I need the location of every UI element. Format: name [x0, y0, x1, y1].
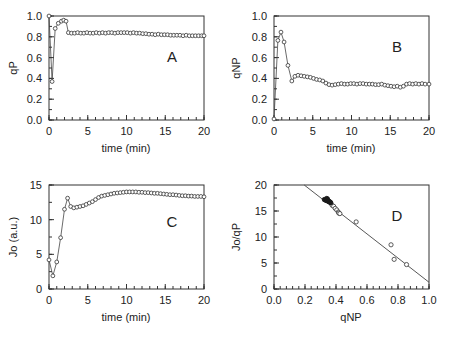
panel-b: 051015200.00.20.40.60.81.0 time (min) qN…	[225, 0, 451, 172]
panel-d-ytick-label: 0	[261, 283, 267, 295]
panel-c-ticks: 05101520051015	[30, 179, 210, 306]
panel-d-plot: 0.00.20.40.60.81.005101520 qNP Jo/qP D	[225, 169, 451, 341]
panel-a-marker	[47, 14, 51, 18]
panel-c-ytick-label: 0	[36, 283, 42, 295]
panel-a-marker	[53, 27, 57, 31]
panel-b-ytick-label: 0.8	[252, 31, 267, 43]
panel-c-ytick-label: 15	[30, 179, 42, 191]
panel-d-ytick-label: 10	[255, 231, 267, 243]
panel-d-xtick-label: 0.8	[390, 294, 405, 306]
panel-c-ytick-label: 5	[36, 248, 42, 260]
panel-b-xtick-label: 20	[423, 125, 435, 137]
panel-a-ytick-label: 0.0	[27, 114, 42, 126]
panel-d-xlabel: qNP	[340, 311, 361, 323]
panel-b-marker	[427, 82, 431, 86]
panel-c-marker	[59, 236, 63, 240]
panel-b-xtick-label: 15	[384, 125, 396, 137]
panel-c-marker	[55, 260, 59, 264]
panel-b-marker	[272, 117, 276, 121]
panel-d-xtick-label: 0.2	[297, 294, 312, 306]
panel-b-xtick-label: 10	[345, 125, 357, 137]
panel-d-ticks: 0.00.20.40.60.81.005101520	[255, 179, 437, 306]
panel-d-xtick-label: 0.0	[266, 294, 281, 306]
panel-d-axes	[274, 185, 429, 289]
panel-c-xtick-label: 20	[198, 294, 210, 306]
panel-a-ytick-label: 0.8	[27, 31, 42, 43]
panel-a: 051015200.00.20.40.60.81.0 time (min) qP…	[0, 0, 226, 172]
panel-c-polyline	[49, 192, 204, 276]
panel-a-marker	[50, 80, 54, 84]
panel-a-xtick-label: 20	[198, 125, 210, 137]
panel-d-ylabel: Jo/qP	[230, 223, 242, 251]
panel-a-series	[47, 14, 206, 83]
panel-d-marker-filled	[325, 196, 329, 200]
panel-b-marker	[276, 39, 280, 43]
panel-c-marker	[202, 195, 206, 199]
panel-a-ytick-label: 0.4	[27, 72, 42, 84]
panel-d-marker-filled	[329, 200, 333, 204]
panel-b-ytick-label: 1.0	[252, 10, 267, 22]
panel-d-marker-open	[404, 262, 408, 266]
panel-c-xtick-label: 5	[85, 294, 91, 306]
panel-d-ytick-label: 20	[255, 179, 267, 191]
panel-c: 05101520051015 time (min) Jo (a.u.) C	[0, 169, 226, 341]
panel-b-xtick-label: 5	[310, 125, 316, 137]
panel-a-xtick-label: 5	[85, 125, 91, 137]
panel-b-marker	[286, 64, 290, 68]
panel-b-axes	[274, 16, 429, 120]
panel-b-letter: B	[392, 38, 402, 55]
panel-b-marker	[423, 82, 427, 86]
panel-a-xlabel: time (min)	[102, 142, 151, 154]
panel-d-ytick-label: 15	[255, 205, 267, 217]
panel-c-xtick-label: 15	[159, 294, 171, 306]
panel-c-marker	[63, 207, 67, 211]
panel-c-letter: C	[167, 213, 178, 230]
panel-b-marker	[282, 40, 286, 44]
panel-c-xlabel: time (min)	[102, 311, 151, 323]
panel-d-series	[304, 185, 429, 282]
panel-a-xtick-label: 0	[46, 125, 52, 137]
panel-c-axes	[49, 185, 204, 289]
panel-b-plot: 051015200.00.20.40.60.81.0 time (min) qN…	[225, 0, 451, 172]
panel-c-marker	[66, 196, 70, 200]
panel-c-series	[47, 190, 206, 278]
panel-b-ticks: 051015200.00.20.40.60.81.0	[252, 10, 435, 137]
panel-b-series	[272, 30, 431, 121]
panel-a-ytick-label: 0.2	[27, 93, 42, 105]
panel-b-ytick-label: 0.0	[252, 114, 267, 126]
figure-container: 051015200.00.20.40.60.81.0 time (min) qP…	[0, 0, 451, 341]
panel-b-ytick-label: 0.6	[252, 52, 267, 64]
panel-d-xtick-label: 1.0	[421, 294, 436, 306]
panel-c-ytick-label: 10	[30, 214, 42, 226]
panel-d: 0.00.20.40.60.81.005101520 qNP Jo/qP D	[225, 169, 451, 341]
panel-d-marker-open	[392, 257, 396, 261]
panel-b-ytick-label: 0.4	[252, 72, 267, 84]
panel-a-xtick-label: 10	[120, 125, 132, 137]
panel-c-plot: 05101520051015 time (min) Jo (a.u.) C	[0, 169, 226, 341]
panel-b-marker	[290, 79, 294, 83]
panel-d-xtick-label: 0.6	[359, 294, 374, 306]
panel-a-letter: A	[167, 48, 177, 65]
panel-a-xtick-label: 15	[159, 125, 171, 137]
panel-a-marker	[64, 19, 68, 23]
panel-a-ytick-label: 1.0	[27, 10, 42, 22]
panel-d-marker-open	[338, 212, 342, 216]
panel-b-ylabel: qNP	[230, 57, 242, 78]
panel-a-marker	[202, 34, 206, 38]
panel-c-marker	[47, 258, 51, 262]
panel-d-marker-open	[389, 243, 393, 247]
panel-c-xtick-label: 0	[46, 294, 52, 306]
panel-d-ytick-label: 5	[261, 257, 267, 269]
panel-c-marker	[51, 274, 55, 278]
panel-d-letter: D	[392, 207, 403, 224]
panel-c-ylabel: Jo (a.u.)	[7, 217, 19, 257]
panel-b-marker	[279, 30, 283, 34]
panel-b-xlabel: time (min)	[327, 142, 376, 154]
panel-a-polyline	[49, 16, 204, 82]
panel-d-marker-open	[354, 220, 358, 224]
panel-a-ytick-label: 0.6	[27, 52, 42, 64]
panel-b-xtick-label: 0	[271, 125, 277, 137]
panel-c-xtick-label: 10	[120, 294, 132, 306]
panel-a-ylabel: qP	[7, 61, 19, 74]
panel-d-xtick-label: 0.4	[328, 294, 343, 306]
